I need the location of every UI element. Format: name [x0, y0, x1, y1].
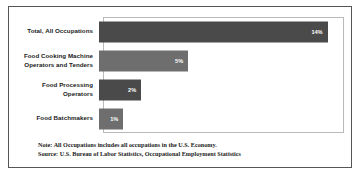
category-label: Food Batchmakers — [14, 114, 99, 122]
category-label: Total, All Occupations — [14, 27, 99, 35]
bar-track: 5% — [99, 46, 344, 75]
bar-value-label: 5% — [175, 58, 188, 64]
bar: 14% — [99, 21, 328, 42]
footnote-source: Source: U.S. Bureau of Labor Statistics,… — [38, 149, 338, 158]
footnotes: Note: All Occupations includes all occup… — [38, 140, 338, 159]
bar-row: Total, All Occupations 14% — [14, 17, 344, 46]
bar-value-label: 14% — [311, 29, 327, 35]
bar: 5% — [99, 50, 188, 71]
bar-track: 1% — [99, 104, 344, 133]
bar-row: Food Batchmakers 1% — [14, 104, 344, 133]
bar-value-label: 2% — [128, 87, 141, 93]
bar-row: Food Cooking Machine Operators and Tende… — [14, 46, 344, 75]
bar-value-label: 1% — [110, 116, 123, 122]
bar: 1% — [99, 108, 123, 129]
category-label: Food Cooking Machine Operators and Tende… — [14, 52, 99, 69]
bar: 2% — [99, 79, 141, 100]
footnote-note: Note: All Occupations includes all occup… — [38, 140, 338, 149]
bar-track: 14% — [99, 17, 344, 46]
bar-row: Food Processing Operators 2% — [14, 75, 344, 104]
category-label: Food Processing Operators — [14, 81, 99, 98]
chart-figure: Total, All Occupations 14% Food Cooking … — [0, 0, 360, 180]
bar-track: 2% — [99, 75, 344, 104]
bar-rows: Total, All Occupations 14% Food Cooking … — [14, 17, 344, 133]
